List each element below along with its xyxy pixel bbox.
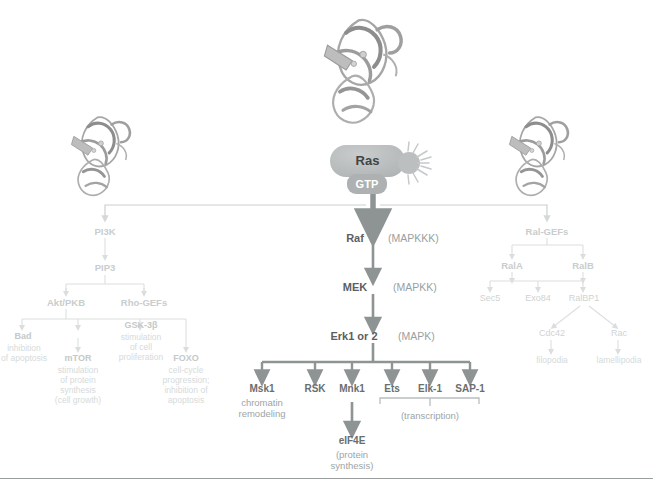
effector-sap1: SAP-1 <box>445 383 495 395</box>
ralbp1-label: RalBP1 <box>559 293 609 304</box>
mtor-label: mTOR <box>53 353 103 364</box>
ras-node-label: Ras <box>330 153 405 168</box>
cascade-node-raf: Raf <box>330 232 380 245</box>
rala-label: RalA <box>488 260 536 271</box>
pip3-label: PIP3 <box>83 262 127 273</box>
gtp-label: GTP <box>347 178 387 190</box>
foxo-label: FOXO <box>161 353 211 364</box>
cascade-node-erk: Erk1 or 2 <box>318 330 390 343</box>
eif4e-sub: (protein synthesis) <box>312 449 392 471</box>
cascade-node-mek: MEK <box>330 281 380 294</box>
effector-msk1-sub: chromatin remodeling <box>222 397 302 419</box>
ras-structure-center-graphic <box>324 20 401 123</box>
ral-gefs-label: Ral-GEFs <box>515 226 579 237</box>
ras-branch-lines <box>105 205 547 219</box>
transcription-group-label: (transcription) <box>390 410 470 421</box>
rac-label: Rac <box>600 328 638 339</box>
akt-pkb-label: Akt/PKB <box>36 297 96 308</box>
eif4e-label: eIF4E <box>322 435 382 447</box>
ralb-label: RalB <box>559 260 607 271</box>
gsk3b-label: GSK-3β <box>114 320 168 331</box>
lamellipodia-label: lamellipodia <box>586 355 652 365</box>
pi3k-label: PI3K <box>83 226 127 237</box>
mtor-sub: stimulation of protein synthesis (cell g… <box>48 365 108 405</box>
pi3k-structure-left-graphic <box>71 117 129 195</box>
cascade-annot-raf: (MAPKKK) <box>388 232 460 244</box>
ras-signaling-pathway-figure: Ras GTP Raf (MAPKKK) MEK (MAPKK) Erk1 or… <box>0 0 653 492</box>
ralgef-structure-right-graphic <box>509 117 567 195</box>
bad-sub: inhibition of apoptosis <box>0 343 51 363</box>
sec5-label: Sec5 <box>469 293 511 304</box>
cascade-annot-erk: (MAPK) <box>398 330 460 342</box>
cascade-annot-mek: (MAPKK) <box>393 281 465 293</box>
rho-gefs-label: Rho-GEFs <box>112 297 176 308</box>
foxo-sub: cell-cycle progression; inhibition of ap… <box>155 365 217 405</box>
pathway-diagram-canvas <box>0 0 653 492</box>
effector-msk1: Msk1 <box>232 383 292 395</box>
exo84-label: Exo84 <box>515 293 561 304</box>
transcription-bracket <box>380 398 479 406</box>
bad-label: Bad <box>0 331 46 342</box>
erk-effector-bus <box>262 362 470 378</box>
filopodia-label: filopodia <box>522 355 582 365</box>
cdc42-label: Cdc42 <box>530 328 574 339</box>
